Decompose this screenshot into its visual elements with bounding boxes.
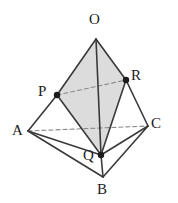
vertex-label-R: R <box>131 68 141 83</box>
edge-RC <box>126 80 148 126</box>
edge-PA <box>28 95 57 131</box>
edge-BC <box>103 126 148 177</box>
vertex-label-P: P <box>38 84 46 99</box>
edge-QB <box>101 155 103 177</box>
vertex-label-Q: Q <box>83 148 94 163</box>
point-marker-R <box>123 77 129 83</box>
geometry-canvas <box>0 0 178 203</box>
geometry-figure: OABCPQR <box>0 0 178 203</box>
shaded-cross-section-face <box>57 39 126 155</box>
point-marker-P <box>54 92 60 98</box>
vertex-label-B: B <box>97 182 107 197</box>
vertex-label-A: A <box>12 123 23 138</box>
vertex-label-C: C <box>151 116 161 131</box>
vertex-label-O: O <box>89 12 100 27</box>
point-marker-Q <box>98 152 104 158</box>
